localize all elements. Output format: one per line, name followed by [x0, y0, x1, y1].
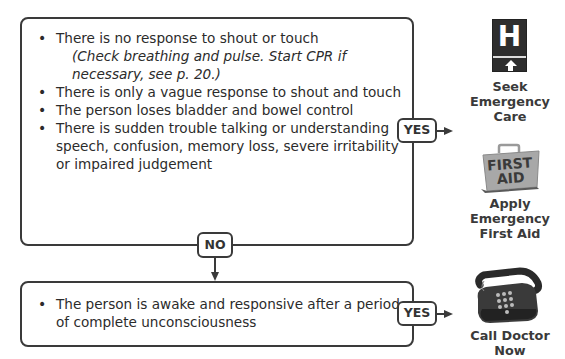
outcome-label: Emergency [460, 94, 560, 109]
outcome-label: Seek [460, 79, 560, 94]
yes-badge-top: YES [397, 118, 437, 143]
hospital-letter: H [493, 21, 526, 53]
yes-badge-bottom: YES [397, 301, 437, 326]
outcome-call-doctor: Call Doctor Now [460, 328, 560, 358]
outcome-label: First Aid [460, 226, 560, 241]
condition-box-doctor: The person is awake and responsive after… [20, 281, 414, 347]
condition-item: There is sudden trouble talking or under… [34, 119, 406, 173]
condition-list: The person is awake and responsive after… [34, 295, 406, 331]
no-connector-line [214, 258, 216, 273]
outcome-label: Apply [460, 196, 560, 211]
arrow-up-stem [508, 66, 513, 71]
cpr-note: (Check breathing and pulse. Start CPR if… [56, 47, 406, 83]
condition-item: There is only a vague response to shout … [34, 83, 406, 101]
condition-box-emergency: There is no response to shout or touch (… [20, 17, 414, 246]
arrow-down-icon [211, 272, 219, 281]
condition-item: The person loses bladder and bowel contr… [34, 101, 406, 119]
outcome-apply-first-aid: Apply Emergency First Aid [460, 196, 560, 241]
condition-item: The person is awake and responsive after… [34, 295, 406, 331]
outcome-label: Call Doctor [460, 328, 560, 343]
first-aid-kit-icon: FIRST AID [477, 143, 543, 193]
outcome-seek-emergency-care: Seek Emergency Care [460, 79, 560, 124]
telephone-icon [472, 265, 544, 327]
sign-divider [493, 56, 526, 58]
outcome-label: Emergency [460, 211, 560, 226]
outcome-label: Now [460, 343, 560, 358]
arrow-right-icon [444, 310, 453, 318]
condition-item: There is no response to shout or touch (… [34, 29, 406, 83]
no-badge: NO [197, 232, 233, 258]
outcome-label: Care [460, 109, 560, 124]
condition-text: There is no response to shout or touch [56, 30, 319, 46]
condition-list: There is no response to shout or touch (… [34, 29, 406, 173]
svg-text:AID: AID [496, 169, 525, 187]
arrow-right-icon [444, 127, 453, 135]
hospital-sign-icon: H [492, 19, 527, 72]
